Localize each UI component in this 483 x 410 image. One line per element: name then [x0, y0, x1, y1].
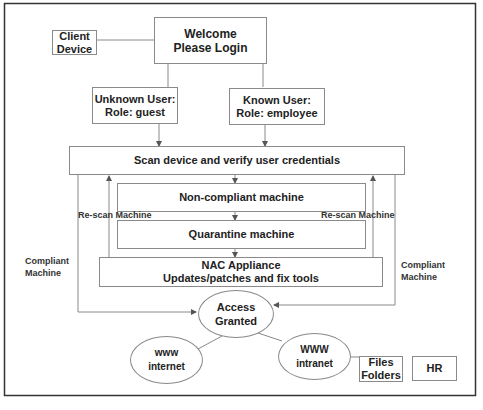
welcome-line2: Please Login: [173, 41, 247, 55]
compliant-left-line2: Machine: [25, 267, 69, 279]
non-compliant-node: Non-compliant machine: [117, 183, 366, 212]
access-intranet-connector: [258, 333, 282, 341]
unknown-user-line2: Role: guest: [105, 106, 165, 119]
non-compliant-text: Non-compliant machine: [179, 191, 304, 204]
nac-line1: NAC Appliance: [201, 259, 280, 272]
access-granted-node: Access Granted: [198, 290, 274, 338]
www-internet-line1: www: [155, 346, 178, 360]
welcome-login-node: Welcome Please Login: [154, 17, 267, 64]
files-line1: Files: [368, 356, 393, 369]
compliant-right-label: Compliant Machine: [401, 259, 445, 283]
www-intranet-line1: WWW: [300, 343, 328, 357]
unknown-user-line1: Unknown User:: [95, 93, 176, 106]
access-line1: Access: [217, 300, 256, 314]
client-device-line1: Client: [59, 30, 90, 43]
scan-verify-node: Scan device and verify user credentials: [69, 146, 405, 175]
access-internet-connector: [198, 336, 222, 349]
hr-text: HR: [427, 362, 443, 375]
known-user-line2: Role: employee: [236, 107, 317, 120]
www-internet-node: www internet: [130, 336, 203, 384]
quarantine-text: Quarantine machine: [189, 228, 295, 241]
compliant-left-label: Compliant Machine: [25, 255, 69, 279]
scan-verify-text: Scan device and verify user credentials: [134, 154, 340, 167]
client-device-line2: Device: [57, 43, 92, 56]
nac-line2: Updates/patches and fix tools: [163, 272, 319, 285]
quarantine-node: Quarantine machine: [117, 220, 366, 249]
hr-node: HR: [412, 356, 457, 381]
compliant-left-line1: Compliant: [25, 255, 69, 267]
www-intranet-line2: intranet: [296, 357, 333, 371]
unknown-user-node: Unknown User: Role: guest: [92, 87, 178, 124]
rescan-left-label: Re-scan Machine: [78, 209, 152, 221]
welcome-line1: Welcome: [184, 27, 236, 41]
www-internet-line2: internet: [148, 360, 185, 374]
files-line2: Folders: [361, 369, 401, 382]
known-user-node: Known User: Role: employee: [229, 88, 325, 125]
known-user-line1: Known User:: [243, 94, 311, 107]
compliant-right-line2: Machine: [401, 271, 445, 283]
rescan-right-label: Re-scan Machine: [321, 209, 395, 221]
www-intranet-node: WWW intranet: [278, 333, 351, 380]
access-line2: Granted: [215, 314, 257, 328]
compliant-right-line1: Compliant: [401, 259, 445, 271]
client-device-node: Client Device: [52, 30, 97, 55]
nac-appliance-node: NAC Appliance Updates/patches and fix to…: [99, 257, 383, 287]
files-folders-node: Files Folders: [359, 356, 403, 382]
